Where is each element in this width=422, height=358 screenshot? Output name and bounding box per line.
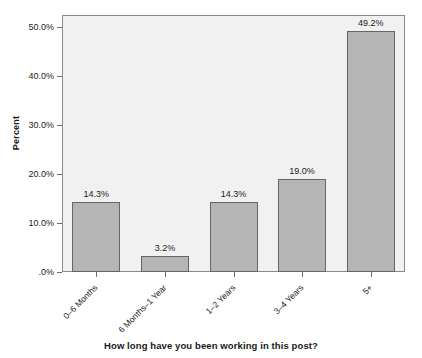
x-tick-mark <box>234 272 235 277</box>
bar <box>141 256 189 272</box>
y-tick-label: 40.0% <box>2 71 54 81</box>
x-axis-title: How long have you been working in this p… <box>0 340 422 352</box>
bar-value-label: 14.3% <box>204 189 264 200</box>
bar-chart: Percent .0%10.0%20.0%30.0%40.0%50.0% 14.… <box>0 0 422 358</box>
y-tick-label: 20.0% <box>2 169 54 179</box>
x-tick-mark <box>302 272 303 277</box>
plot-area <box>62 15 405 272</box>
y-axis-title: Percent <box>9 98 23 168</box>
y-tick-label: .0% <box>2 267 54 277</box>
bar <box>210 202 258 272</box>
x-tick-mark <box>165 272 166 277</box>
bar <box>72 202 120 272</box>
bar-value-label: 3.2% <box>135 243 195 254</box>
y-tick-mark <box>57 272 62 273</box>
bar <box>278 179 326 272</box>
y-tick-label: 10.0% <box>2 218 54 228</box>
bar-value-label: 19.0% <box>272 166 332 177</box>
bar <box>347 31 395 272</box>
x-tick-mark <box>371 272 372 277</box>
y-tick-label: 30.0% <box>2 120 54 130</box>
bar-value-label: 14.3% <box>66 189 126 200</box>
x-tick-mark <box>96 272 97 277</box>
bar-value-label: 49.2% <box>341 18 401 29</box>
y-tick-label: 50.0% <box>2 22 54 32</box>
